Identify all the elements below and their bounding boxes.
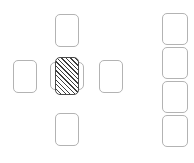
column-card-2[interactable] [162,47,188,79]
card-center-selected[interactable] [55,57,79,95]
card-bottom[interactable] [55,113,79,146]
diagram-canvas [0,0,194,163]
card-left[interactable] [13,60,37,93]
column-card-3[interactable] [162,81,188,113]
column-card-1[interactable] [162,13,188,45]
card-right[interactable] [99,60,123,93]
card-top[interactable] [55,14,79,47]
column-card-4[interactable] [162,115,188,147]
